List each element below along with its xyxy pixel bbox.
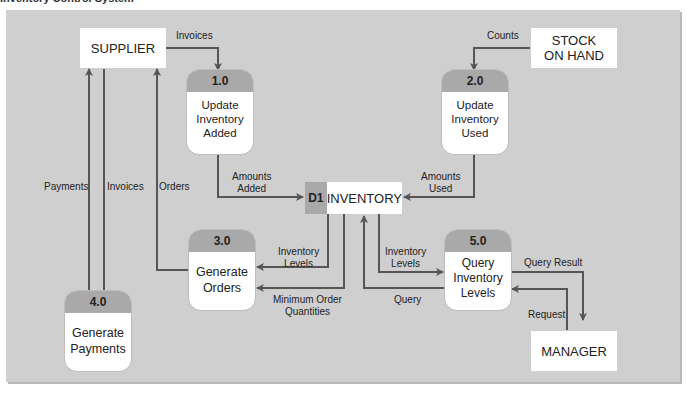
process-1-0-id: 1.0 bbox=[187, 70, 253, 92]
entity-stock-on-hand: STOCK ON HAND bbox=[531, 28, 617, 68]
entity-manager-label: MANAGER bbox=[541, 344, 607, 359]
flow-label-invoices-top: Invoices bbox=[176, 30, 213, 42]
process-3-0-label: GenerateOrders bbox=[189, 252, 255, 296]
flow-label-query-result: Query Result bbox=[524, 257, 582, 269]
data-store-id: D1 bbox=[305, 182, 327, 214]
flow-label-query: Query bbox=[394, 294, 421, 306]
entity-stock-label-2: ON HAND bbox=[544, 48, 604, 63]
process-3-0: 3.0 GenerateOrders bbox=[188, 229, 256, 311]
flow-label-amounts-added: AmountsAdded bbox=[232, 171, 271, 195]
process-5-0-id: 5.0 bbox=[445, 230, 511, 252]
entity-manager: MANAGER bbox=[531, 331, 617, 371]
flow-label-orders: Orders bbox=[159, 181, 190, 193]
flow-label-request: Request bbox=[528, 309, 565, 321]
process-3-0-id: 3.0 bbox=[189, 230, 255, 252]
process-4-0: 4.0 GeneratePayments bbox=[64, 290, 132, 372]
process-1-0: 1.0 UpdateInventoryAdded bbox=[186, 69, 254, 155]
entity-supplier: SUPPLIER bbox=[80, 28, 166, 68]
entity-stock-label-1: STOCK bbox=[552, 33, 597, 48]
data-store-inventory: D1 INVENTORY bbox=[305, 182, 402, 214]
process-5-0-label: QueryInventoryLevels bbox=[445, 252, 511, 301]
process-5-0: 5.0 QueryInventoryLevels bbox=[444, 229, 512, 311]
process-2-0-label: UpdateInventoryUsed bbox=[442, 92, 508, 140]
flow-label-inventory-levels-5: InventoryLevels bbox=[385, 246, 426, 270]
flow-label-counts: Counts bbox=[487, 30, 519, 42]
flow-label-minimum-order: Minimum OrderQuantities bbox=[273, 294, 342, 318]
flow-label-invoices-left: Invoices bbox=[107, 181, 144, 193]
flow-label-inventory-levels-3: InventoryLevels bbox=[278, 246, 319, 270]
flow-label-amounts-used: AmountsUsed bbox=[421, 171, 460, 195]
process-1-0-label: UpdateInventoryAdded bbox=[187, 92, 253, 140]
data-store-name: INVENTORY bbox=[327, 182, 402, 214]
process-2-0: 2.0 UpdateInventoryUsed bbox=[441, 69, 509, 155]
flow-label-payments: Payments bbox=[44, 181, 88, 193]
process-2-0-id: 2.0 bbox=[442, 70, 508, 92]
entity-supplier-label: SUPPLIER bbox=[91, 41, 155, 56]
process-4-0-id: 4.0 bbox=[65, 291, 131, 313]
process-4-0-label: GeneratePayments bbox=[65, 313, 131, 357]
